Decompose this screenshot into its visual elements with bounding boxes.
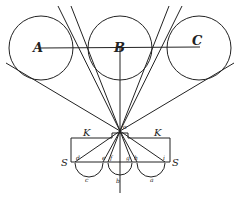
label-f: f (109, 154, 114, 162)
label-d: d (76, 154, 80, 161)
optics-diagram: A B C K K S S o d e f g h i c b a (0, 0, 239, 197)
label-s-left: S (61, 157, 68, 168)
label-s-right: S (172, 157, 179, 168)
label-k-left: K (82, 127, 91, 138)
label-i: i (163, 154, 165, 161)
label-b-small: b (116, 177, 120, 184)
label-e: e (102, 154, 106, 161)
label-o: o (123, 123, 127, 130)
label-k-right: K (153, 127, 162, 138)
label-a: A (31, 40, 43, 55)
label-h: h (134, 154, 138, 161)
label-b: B (113, 40, 125, 55)
label-a-small: a (150, 176, 154, 183)
label-g: g (126, 154, 130, 162)
label-c: C (192, 33, 203, 48)
